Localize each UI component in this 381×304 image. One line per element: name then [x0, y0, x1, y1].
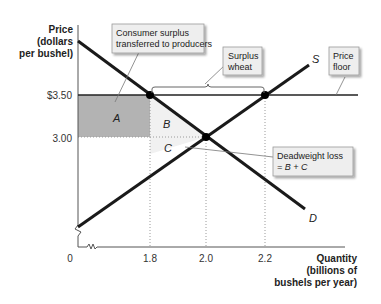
- svg-text:= B + C: = B + C: [277, 162, 308, 172]
- x-axis-break-icon: [87, 244, 345, 249]
- x-tick-labels: 0 1.8 2.0 2.2: [67, 253, 272, 264]
- point-quantity-demanded: [146, 91, 154, 99]
- supply-label: S: [312, 53, 320, 65]
- demand-label: D: [309, 212, 317, 224]
- region-b-label: B: [163, 118, 170, 130]
- annotation-price-floor: Price floor: [329, 47, 359, 75]
- svg-text:2.0: 2.0: [199, 253, 213, 264]
- point-quantity-supplied: [261, 91, 269, 99]
- price-floor-chart: A B C S D Consumer surplus transferred t…: [0, 0, 381, 304]
- svg-text:transferred to producers: transferred to producers: [116, 39, 213, 49]
- svg-text:$3.50: $3.50: [47, 90, 72, 101]
- svg-text:Price: Price: [333, 51, 354, 61]
- x-axis-label: Quantity (billions of bushels per year): [274, 253, 357, 288]
- svg-text:Consumer surplus: Consumer surplus: [116, 28, 190, 38]
- svg-text:(dollars: (dollars: [37, 36, 74, 47]
- region-c-label: C: [164, 142, 172, 154]
- svg-text:2.2: 2.2: [258, 253, 272, 264]
- svg-text:Price: Price: [49, 24, 74, 35]
- region-c: [150, 137, 206, 154]
- svg-text:Deadweight loss: Deadweight loss: [277, 151, 344, 161]
- y-axis-label: Price (dollars per bushel): [19, 24, 73, 59]
- y-axis-break-icon: [75, 225, 81, 247]
- region-a-label: A: [112, 112, 120, 124]
- surplus-brace: [152, 84, 264, 93]
- annotation-surplus-wheat: Surplus wheat: [223, 47, 262, 75]
- svg-text:3.00: 3.00: [53, 133, 73, 144]
- annotation-consumer-surplus: Consumer surplus transferred to producer…: [112, 24, 213, 53]
- svg-text:Quantity: Quantity: [316, 253, 357, 264]
- svg-text:(billions of: (billions of: [306, 265, 357, 276]
- y-tick-labels: $3.50 3.00: [47, 90, 72, 144]
- svg-text:bushels per year): bushels per year): [274, 277, 357, 288]
- svg-text:per bushel): per bushel): [19, 48, 73, 59]
- svg-text:1.8: 1.8: [143, 253, 157, 264]
- point-equilibrium: [202, 133, 210, 141]
- annotation-deadweight-loss: Deadweight loss = B + C: [273, 147, 353, 176]
- svg-text:wheat: wheat: [227, 62, 253, 72]
- svg-text:0: 0: [67, 253, 73, 264]
- svg-text:Surplus: Surplus: [228, 51, 259, 61]
- svg-text:floor: floor: [333, 62, 351, 72]
- supply-curve: [78, 65, 309, 227]
